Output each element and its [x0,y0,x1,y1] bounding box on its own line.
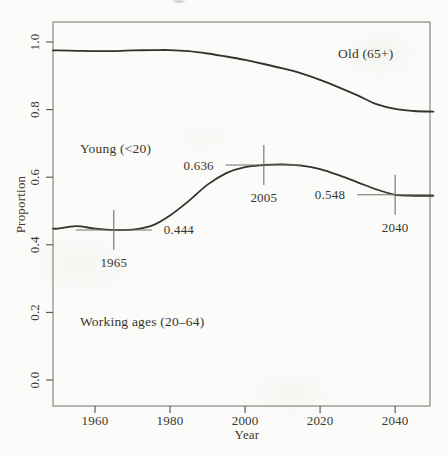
marker-2005-value-label: 0.636 [184,158,215,173]
scanned-figure-page: 0.00.20.40.60.81.0196019802000202020400.… [0,0,448,457]
band-label-young: Young (<20) [80,141,151,157]
y-tick-label: 0.2 [27,304,42,321]
x-tick-label: 2040 [382,413,409,428]
plot-frame [53,22,430,406]
x-tick-label: 1980 [157,413,184,428]
y-tick-label: 0.0 [27,372,42,389]
band-label-old: Old (65+) [338,46,394,62]
proportion-by-age-group-chart: 0.00.20.40.60.81.0196019802000202020400.… [0,0,448,457]
x-axis-title: Year [216,427,278,443]
marker-1965-year-label: 1965 [100,255,127,270]
y-tick-label: 0.8 [27,101,42,118]
x-tick-label: 2000 [232,413,259,428]
x-tick-label: 1960 [82,413,109,428]
marker-2040-year-label: 2040 [382,220,409,235]
working-boundary-curve [53,164,433,230]
marker-2040-value-label: 0.548 [315,187,345,202]
x-tick-label: 2020 [307,413,334,428]
y-tick-label: 1.0 [27,34,42,51]
marker-2005-year-label: 2005 [250,190,277,205]
band-label-working: Working ages (20–64) [80,314,204,330]
marker-1965-value-label: 0.444 [164,222,195,237]
y-axis-title: Proportion [13,159,30,250]
